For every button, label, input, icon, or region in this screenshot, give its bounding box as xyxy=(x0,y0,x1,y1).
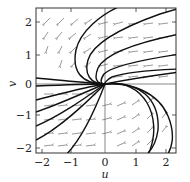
y-tick-label: −1 xyxy=(16,109,32,122)
trajectories xyxy=(36,4,180,160)
direction-field-upper xyxy=(44,18,168,77)
x-axis-label: u xyxy=(101,168,108,181)
x-tick-label: −2 xyxy=(34,156,50,169)
phase-portrait: −2 −1 0 1 2 2 1 0 −1 −2 u v xyxy=(0,0,190,182)
y-tick-label: 1 xyxy=(25,49,32,62)
y-axis-label: v xyxy=(6,80,19,87)
x-tick-label: 2 xyxy=(163,156,170,169)
y-tick-label: −2 xyxy=(16,142,32,155)
y-tick-label: 0 xyxy=(25,78,32,91)
x-tick-label: 1 xyxy=(133,156,140,169)
x-tick-label: −1 xyxy=(63,156,79,169)
y-tick-label: 2 xyxy=(25,16,32,29)
